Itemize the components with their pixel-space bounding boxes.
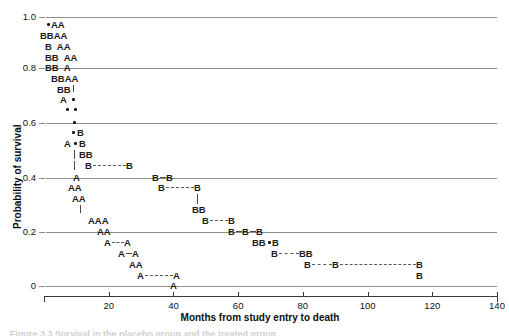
censored-dot-marker <box>74 108 77 111</box>
y-tick-0-4 <box>39 178 45 179</box>
gridline-1-0 <box>46 17 497 18</box>
marker-label: A <box>173 271 180 280</box>
marker-label: BB <box>252 238 266 247</box>
x-axis-label: 80 <box>287 300 319 311</box>
marker-label: A <box>170 281 177 290</box>
marker-label: B <box>416 271 423 280</box>
x-tick-100 <box>368 292 369 297</box>
marker-label: A <box>73 173 80 182</box>
vertical-connector <box>73 85 74 92</box>
marker-label: B <box>166 173 173 182</box>
marker-label: B <box>228 227 235 236</box>
dashed-connector <box>93 165 126 166</box>
marker-label: A <box>60 95 67 104</box>
y-axis-label: 0 <box>8 280 36 291</box>
y-axis-label: 0.2 <box>8 226 36 237</box>
x-tick-20 <box>109 292 110 297</box>
x-tick-120 <box>432 292 433 297</box>
marker-label: B <box>158 183 165 192</box>
gridline-0-4 <box>46 178 497 179</box>
marker-label: B <box>194 183 201 192</box>
y-tick-0-2 <box>39 232 45 233</box>
dashed-connector <box>279 253 299 254</box>
marker-label: AA <box>68 183 82 192</box>
marker-label: B AA <box>45 42 71 51</box>
marker-label: B <box>256 227 263 236</box>
vertical-connector <box>74 161 75 170</box>
marker-label: B <box>126 161 133 170</box>
x-axis-label: 100 <box>352 300 384 311</box>
marker-label: BB A <box>45 63 71 72</box>
marker-label: B <box>416 260 423 269</box>
censored-dot-marker <box>73 121 76 124</box>
marker-label: B <box>202 216 209 225</box>
marker-label: AAA <box>88 216 109 225</box>
y-tick-0-6 <box>39 123 45 124</box>
censored-dot-marker <box>66 108 69 111</box>
x-tick-40 <box>173 292 174 297</box>
x-tick-80 <box>303 292 304 297</box>
marker-label: BB <box>57 85 71 94</box>
figure-caption: Figure 3.3 Survival in the placebo group… <box>10 329 499 336</box>
dashed-connector <box>312 264 332 265</box>
marker-label: A <box>132 249 139 258</box>
dashed-connector <box>340 264 416 265</box>
censored-dot-marker <box>74 142 77 145</box>
y-axis-label: 0.6 <box>8 117 36 128</box>
marker-label: A <box>124 238 131 247</box>
marker-label: BB AA <box>45 53 77 62</box>
vertical-connector <box>197 194 198 204</box>
vertical-connector <box>74 150 75 159</box>
marker-label: AA <box>51 20 65 29</box>
gridline-0-8 <box>46 68 497 69</box>
marker-label: AA <box>97 227 111 236</box>
marker-label: A <box>104 238 111 247</box>
marker-label: BB <box>79 150 93 159</box>
marker-label: AA <box>72 194 86 203</box>
dashed-connector <box>210 220 228 221</box>
x-tick-140 <box>497 292 498 297</box>
x-axis-label: 20 <box>93 300 125 311</box>
marker-label: B <box>242 227 249 236</box>
x-axis-label: 40 <box>157 300 189 311</box>
dashed-connector <box>145 275 173 276</box>
marker-label: B <box>77 128 84 137</box>
marker-label: B <box>228 216 235 225</box>
x-axis-label: 120 <box>416 300 448 311</box>
marker-label: B <box>152 173 159 182</box>
x-axis-label: 140 <box>481 300 509 311</box>
censored-dot-marker <box>47 23 50 26</box>
marker-label: B <box>79 139 86 148</box>
vertical-connector <box>80 205 81 213</box>
x-axis-line <box>44 296 497 297</box>
marker-label: BBAA <box>40 31 67 40</box>
dashed-connector <box>112 242 124 243</box>
x-axis-title: Months from study entry to death <box>150 312 370 323</box>
marker-label: B <box>272 238 279 247</box>
marker-label: B <box>332 260 339 269</box>
censored-dot-marker <box>72 131 75 134</box>
x-axis-label: 60 <box>222 300 254 311</box>
gridline-0-6 <box>46 123 497 124</box>
x-axis-endcap <box>44 296 45 302</box>
marker-label: B <box>85 161 92 170</box>
y-axis-label: 1.0 <box>8 11 36 22</box>
y-axis-label: 0.8 <box>8 62 36 73</box>
gridline-0-2 <box>46 232 497 233</box>
dashed-connector <box>166 187 194 188</box>
gridline-0 <box>46 286 497 287</box>
marker-label: BBAA <box>51 74 78 83</box>
y-axis-label: 0.4 <box>8 172 36 183</box>
y-tick-0 <box>39 286 45 287</box>
marker-label: AA <box>129 260 143 269</box>
x-tick-60 <box>238 292 239 297</box>
y-tick-1-0 <box>39 17 45 18</box>
marker-label: B <box>304 260 311 269</box>
marker-label: A <box>137 271 144 280</box>
marker-label: BB <box>192 205 206 214</box>
marker-label: A <box>118 249 125 258</box>
marker-label: B <box>271 249 278 258</box>
marker-label: A <box>64 139 71 148</box>
censored-dot-marker <box>72 98 75 101</box>
